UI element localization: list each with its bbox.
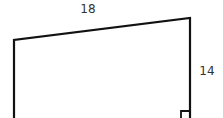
trapezoid-diagram: 18 14: [0, 0, 223, 118]
top-side-label: 18: [80, 2, 95, 16]
trapezoid-outline: [14, 18, 190, 118]
right-angle-marker: [181, 111, 190, 118]
right-side-label: 14: [199, 64, 214, 78]
